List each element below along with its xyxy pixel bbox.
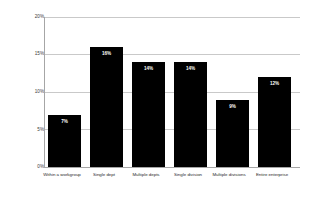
y-tick-label-20: 20% [20,14,44,19]
plot-area: 7% 16% 14% 14% 9% 12% [44,17,300,168]
x-label-multiple-divisions: Multiple divisions [208,172,250,177]
bar-single-dept[interactable]: 16% [90,47,123,167]
bar-slot-single-division: 14% [174,17,207,167]
bar-value-single-dept: 16% [90,51,123,56]
y-tick-label-5: 5% [20,127,44,132]
bar-chart-figure: Percent of project budget dedicated to C… [0,0,310,201]
bar-value-entire-enterprise: 12% [258,81,291,86]
y-tick-label-15: 15% [20,51,44,56]
bar-value-multiple-depts: 14% [132,66,165,71]
bar-within-a-workgroup[interactable]: 7% [48,115,81,168]
y-tick-label-10: 10% [20,89,44,94]
x-label-single-division: Single division [168,172,208,177]
bar-slot-single-dept: 16% [90,17,123,167]
bar-slot-within-a-workgroup: 7% [48,17,81,167]
x-label-within-a-workgroup: Within a workgroup [40,172,84,177]
bar-slot-entire-enterprise: 12% [258,17,291,167]
bar-value-within-a-workgroup: 7% [48,119,81,124]
x-label-multiple-depts: Multiple depts [126,172,166,177]
bar-multiple-depts[interactable]: 14% [132,62,165,167]
bar-multiple-divisions[interactable]: 9% [216,100,249,168]
bar-slot-multiple-depts: 14% [132,17,165,167]
x-label-entire-enterprise: Entire enterprise [251,172,293,177]
bar-single-division[interactable]: 14% [174,62,207,167]
x-label-single-dept: Single dept [84,172,124,177]
bar-slot-multiple-divisions: 9% [216,17,249,167]
y-tick-label-0: 0% [20,164,44,169]
bar-value-single-division: 14% [174,66,207,71]
bar-entire-enterprise[interactable]: 12% [258,77,291,167]
bar-value-multiple-divisions: 9% [216,104,249,109]
